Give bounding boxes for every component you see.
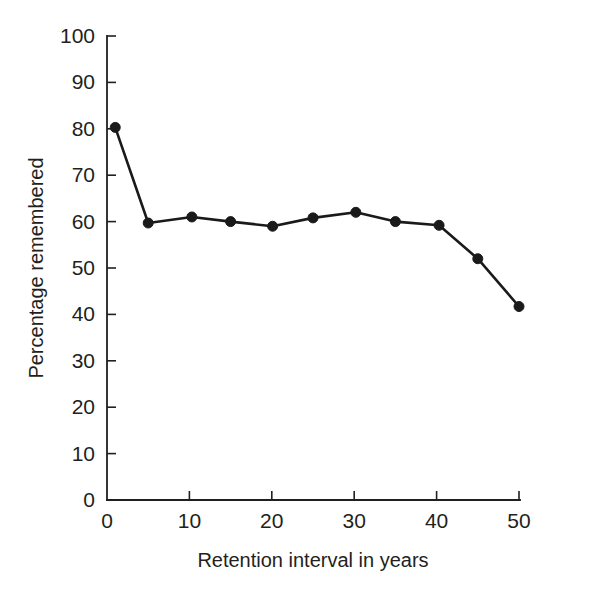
data-point (143, 218, 153, 228)
line-chart: 0102030405060708090100 01020304050 Reten… (0, 0, 602, 599)
y-axis-tick-labels: 0102030405060708090100 (60, 24, 95, 511)
data-point (390, 217, 400, 227)
y-tick-label: 90 (72, 70, 95, 93)
x-tick-label: 10 (178, 509, 201, 532)
x-tick-label: 0 (101, 509, 113, 532)
y-axis-ticks (107, 36, 116, 500)
data-point (308, 213, 318, 223)
data-point (473, 254, 483, 264)
y-tick-label: 60 (72, 210, 95, 233)
y-tick-label: 20 (72, 395, 95, 418)
y-tick-label: 100 (60, 24, 95, 47)
x-axis-tick-labels: 01020304050 (101, 509, 531, 532)
y-tick-label: 80 (72, 117, 95, 140)
y-tick-label: 40 (72, 302, 95, 325)
y-tick-label: 50 (72, 256, 95, 279)
data-series-markers (110, 122, 524, 311)
data-point (434, 220, 444, 230)
x-axis-ticks (189, 491, 519, 500)
y-tick-label: 70 (72, 163, 95, 186)
x-tick-label: 50 (507, 509, 530, 532)
axis-lines (107, 36, 520, 500)
y-tick-label: 10 (72, 442, 95, 465)
data-point (351, 207, 361, 217)
x-tick-label: 30 (343, 509, 366, 532)
x-axis-title: Retention interval in years (197, 549, 428, 571)
data-point (268, 221, 278, 231)
data-point (187, 212, 197, 222)
y-tick-label: 0 (83, 488, 95, 511)
data-point (514, 302, 524, 312)
x-tick-label: 40 (425, 509, 448, 532)
x-tick-label: 20 (260, 509, 283, 532)
y-tick-label: 30 (72, 349, 95, 372)
data-point (226, 217, 236, 227)
chart-figure: 0102030405060708090100 01020304050 Reten… (0, 0, 602, 599)
y-axis-title: Percentage remembered (25, 157, 47, 378)
data-point (110, 122, 120, 132)
